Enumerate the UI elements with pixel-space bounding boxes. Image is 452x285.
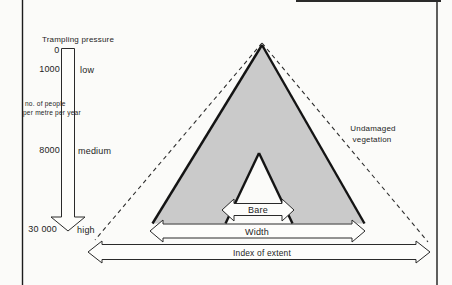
undamaged-vegetation-label-line1: Undamaged bbox=[350, 124, 395, 133]
level-medium-label: medium bbox=[78, 146, 111, 156]
width-label: Width bbox=[245, 227, 269, 237]
level-high-label: high bbox=[77, 225, 95, 235]
pressure-scale-arrow bbox=[51, 49, 85, 232]
index-of-extent-label: Index of extent bbox=[233, 248, 291, 258]
tick-30000-label: 30 000 bbox=[28, 224, 57, 234]
scale-unit-line2: per metre per year bbox=[23, 109, 81, 117]
tick-8000-label: 8000 bbox=[39, 145, 60, 155]
scale-unit-line1: no. of people bbox=[25, 100, 66, 108]
undamaged-vegetation-label-line2: vegetation bbox=[353, 135, 392, 144]
trampling-pressure-figure: Trampling pressure 0 1000 low no. of peo… bbox=[0, 0, 452, 285]
trampling-diagram-canvas: Trampling pressure 0 1000 low no. of peo… bbox=[0, 0, 452, 285]
tick-zero-label: 0 bbox=[54, 45, 59, 55]
bare-label: Bare bbox=[248, 205, 268, 215]
level-low-label: low bbox=[80, 65, 94, 75]
pressure-scale-title: Trampling pressure bbox=[42, 35, 115, 44]
tick-1000-label: 1000 bbox=[39, 64, 60, 74]
